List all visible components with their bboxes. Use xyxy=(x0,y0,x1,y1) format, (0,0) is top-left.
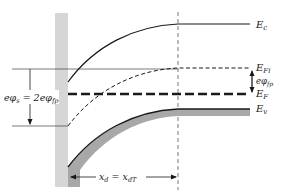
conduction-band-edge xyxy=(68,24,250,82)
ev-label: Ev xyxy=(255,103,267,116)
energy-band-diagram: eφs = 2eφfp eφfp Ec EFi EF Ev xd = xdT xyxy=(0,0,297,193)
efi-label: EFi xyxy=(255,62,270,75)
valence-band-shading xyxy=(68,109,250,187)
ec-label: Ec xyxy=(255,19,267,32)
ef-label: EF xyxy=(255,88,269,101)
fermi-potential-label: eφfp xyxy=(256,76,273,88)
